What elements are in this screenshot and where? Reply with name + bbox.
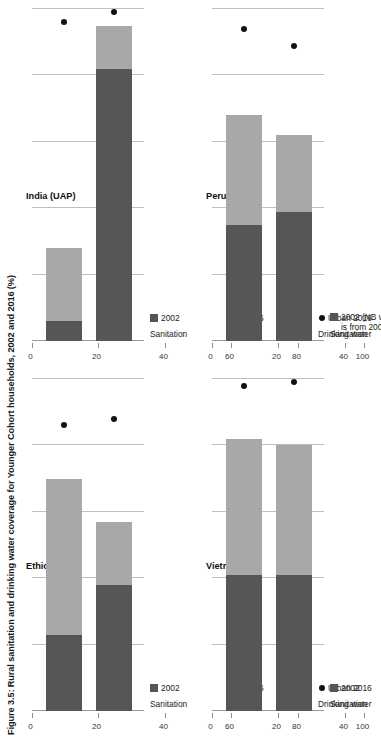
axis-tick-mark-40 (345, 343, 346, 348)
legend-2002-peru: 2002 (NB water datais from 2006) (330, 313, 381, 332)
axis-tick-mark-0 (212, 343, 213, 348)
bar-group-vietnam-sanitation[interactable] (226, 379, 262, 711)
legend-category-sanitation: Sanitation (150, 329, 187, 339)
urban-2016-marker-peru-drinking-water[interactable] (291, 43, 297, 49)
swatch-2002 (330, 684, 338, 692)
legend-india: Sanitation 2002 2016 Drinking water Urba… (150, 5, 198, 341)
value-axis-ethiopia: 100806040200 (32, 713, 144, 737)
urban-2016-marker-vietnam-sanitation[interactable] (241, 383, 247, 389)
legend-vietnam: Sanitation 2002 2016 Drinking water Urba… (330, 375, 378, 711)
bar-2002-peru-sanitation[interactable] (226, 225, 262, 341)
plot-area-india (32, 9, 144, 341)
axis-tick-label-40: 40 (152, 352, 174, 361)
axis-tick-mark-0 (32, 343, 33, 348)
bars-vietnam (212, 379, 324, 711)
bar-group-peru-sanitation[interactable] (226, 9, 262, 341)
legend-2002-india: 2002 (150, 313, 180, 323)
panel-india-uap: India (UAP) 100806040200 Sanitation 2002… (24, 1, 200, 367)
axis-tick-mark-40 (165, 713, 166, 718)
axis-tick-mark-20 (278, 713, 279, 718)
bar-2002-peru-drinking-water[interactable] (276, 212, 312, 341)
axis-tick-label-40: 40 (332, 722, 354, 731)
value-axis-peru: 100806040200 (212, 343, 324, 367)
axis-tick-label-40: 40 (152, 722, 174, 731)
bar-group-vietnam-drinking-water[interactable] (276, 379, 312, 711)
panel-peru: Peru 100806040200 Sanitation 2002 (NB wa… (204, 1, 380, 367)
bar-group-india-drinking-water[interactable] (96, 9, 132, 341)
axis-tick-mark-40 (345, 713, 346, 718)
axis-tick-label-0: 0 (20, 722, 42, 731)
legend-ethiopia: Sanitation 2002 2016 Drinking water Urba… (150, 375, 198, 711)
urban-2016-marker-ethiopia-drinking-water[interactable] (111, 416, 117, 422)
bar-group-ethiopia-sanitation[interactable] (46, 379, 82, 711)
bar-2002-ethiopia-sanitation[interactable] (46, 635, 82, 711)
axis-tick-label-0: 0 (200, 722, 222, 731)
bar-group-ethiopia-drinking-water[interactable] (96, 379, 132, 711)
figure-3-5: Figure 3.5: Rural sanitation and drinkin… (0, 0, 381, 741)
legend-2002-vietnam: 2002 (330, 683, 360, 693)
plot-area-peru (212, 9, 324, 341)
axis-tick-mark-0 (32, 713, 33, 718)
bars-ethiopia (32, 379, 144, 711)
axis-tick-mark-0 (212, 713, 213, 718)
axis-tick-label-0: 0 (200, 352, 222, 361)
figure-title: Figure 3.5: Rural sanitation and drinkin… (6, 275, 16, 735)
swatch-2002 (330, 313, 338, 321)
bar-2002-ethiopia-drinking-water[interactable] (96, 585, 132, 711)
bars-india (32, 9, 144, 341)
bar-group-peru-drinking-water[interactable] (276, 9, 312, 341)
bar-2002-india-sanitation[interactable] (46, 321, 82, 341)
axis-tick-label-40: 40 (332, 352, 354, 361)
legend-category-sanitation: Sanitation (150, 699, 187, 709)
bars-peru (212, 9, 324, 341)
bar-2002-vietnam-sanitation[interactable] (226, 575, 262, 711)
axis-tick-mark-20 (98, 343, 99, 348)
value-axis-vietnam: 100806040200 (212, 713, 324, 737)
legend-category-sanitation: Sanitation (330, 699, 367, 709)
axis-tick-label-0: 0 (20, 352, 42, 361)
plot-area-vietnam (212, 379, 324, 711)
axis-tick-label-20: 20 (266, 722, 288, 731)
axis-tick-mark-20 (98, 713, 99, 718)
axis-tick-mark-20 (278, 343, 279, 348)
value-axis-india: 100806040200 (32, 343, 144, 367)
rotated-figure-canvas: Figure 3.5: Rural sanitation and drinkin… (0, 0, 381, 741)
swatch-2002 (150, 314, 158, 322)
bar-2002-vietnam-drinking-water[interactable] (276, 575, 312, 711)
axis-tick-label-20: 20 (86, 722, 108, 731)
panel-ethiopia: Ethiopia 100806040200 Sanitation 2002 20… (24, 371, 200, 737)
axis-tick-label-20: 20 (266, 352, 288, 361)
legend-peru: Sanitation 2002 (NB water datais from 20… (330, 5, 378, 341)
legend-2002-ethiopia: 2002 (150, 683, 180, 693)
urban-2016-marker-peru-sanitation[interactable] (241, 26, 247, 32)
bar-2002-india-drinking-water[interactable] (96, 69, 132, 341)
panel-grid: Ethiopia 100806040200 Sanitation 2002 20… (24, 0, 381, 741)
swatch-2002 (150, 684, 158, 692)
panel-vietnam: Vietnam 100806040200 Sanitation 2002 201… (204, 371, 380, 737)
axis-tick-mark-40 (165, 343, 166, 348)
bar-group-india-sanitation[interactable] (46, 9, 82, 341)
plot-area-ethiopia (32, 379, 144, 711)
axis-tick-label-20: 20 (86, 352, 108, 361)
